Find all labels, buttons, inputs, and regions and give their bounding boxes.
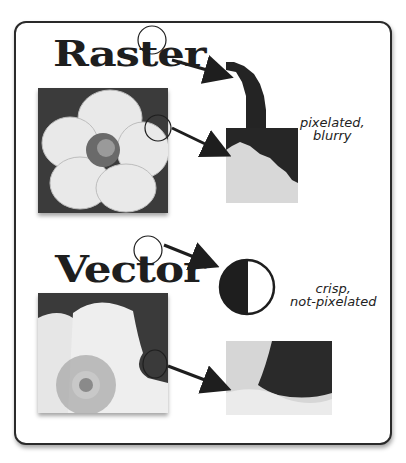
- vector-photo-zoom: [226, 341, 332, 415]
- vector-caption-line2: not-pixelated: [290, 295, 376, 308]
- raster-title: Raster: [53, 35, 205, 71]
- raster-caption-line2: blurry: [300, 129, 365, 142]
- raster-caption: pixelated, blurry: [300, 116, 365, 142]
- vector-title: Vector: [55, 250, 205, 288]
- vector-flower-photo: [38, 293, 168, 413]
- vector-caption: crisp, not-pixelated: [290, 282, 376, 308]
- raster-photo-zoom: [226, 128, 298, 203]
- raster-flower-photo: [38, 88, 168, 213]
